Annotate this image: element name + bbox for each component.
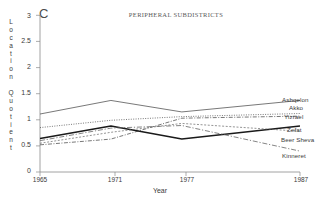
series-line-kinneret xyxy=(40,126,300,152)
chart-figure: C PERIPHERAL SUBDISTRICTS Location Quoti… xyxy=(0,0,320,203)
axis-lines xyxy=(40,15,300,172)
series-label-kinneret: Kinneret xyxy=(282,152,306,159)
series-line-zefat xyxy=(40,126,300,139)
series-line-ashqelon xyxy=(40,100,300,114)
series-label-ashqelon: Ashqelon xyxy=(282,96,309,103)
plot-area xyxy=(0,0,320,203)
y-axis-ticks xyxy=(36,15,40,172)
series-label-beer-sheva: Beer Sheva xyxy=(281,136,314,143)
series-label-akko: Akko xyxy=(289,104,303,111)
series-line-akko xyxy=(40,114,300,128)
series-label-yizrael: Yizrael xyxy=(284,113,303,120)
x-axis-ticks xyxy=(40,172,300,176)
data-series-layer xyxy=(40,100,300,151)
series-line-beer-sheva xyxy=(40,123,300,143)
series-label-zefat: Zefat xyxy=(287,126,302,133)
